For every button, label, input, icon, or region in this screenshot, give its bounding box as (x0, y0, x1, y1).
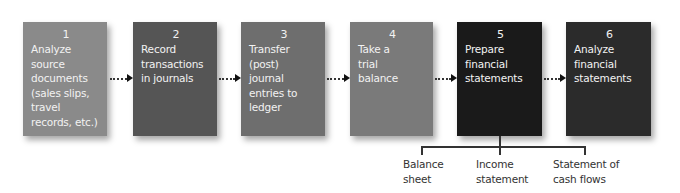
step-6-number: 6 (574, 28, 645, 41)
step-2-label: Record transactions in journals (141, 42, 211, 86)
step-4-label: Take a trial balance (358, 42, 427, 86)
step-5-label: Prepare financial statements (465, 42, 536, 86)
step-6-box: 6 Analyze financial statements (566, 22, 651, 136)
step-2-box: 2 Record transactions in journals (133, 22, 217, 136)
step-3-box: 3 Transfer (post) journal entries to led… (241, 22, 325, 136)
dotted-line (544, 78, 560, 80)
tree-branch-balance-sheet (421, 146, 423, 155)
arrow-5-to-6 (544, 74, 566, 83)
step-2-number: 2 (141, 28, 211, 41)
step-1-box: 1 Analyze source documents (sales slips,… (23, 22, 107, 136)
dotted-line (110, 78, 127, 80)
arrow-1-to-2 (110, 74, 133, 83)
step-3-label: Transfer (post) journal entries to ledge… (249, 42, 319, 115)
step-4-box: 4 Take a trial balance (350, 22, 433, 136)
dotted-line (219, 78, 235, 80)
step-6-label: Analyze financial statements (574, 42, 645, 86)
step-1-number: 1 (31, 28, 101, 41)
arrow-3-to-4 (327, 74, 350, 83)
balance-sheet-label: Balance sheet (403, 157, 443, 187)
tree-horizontal-line (421, 146, 585, 148)
step-4-number: 4 (358, 28, 427, 41)
tree-branch-cash-flows (584, 146, 586, 155)
step-5-number: 5 (465, 28, 536, 41)
step-5-box: 5 Prepare financial statements (457, 22, 542, 136)
step-3-number: 3 (249, 28, 319, 41)
cash-flows-statement-label: Statement of cash flows (553, 157, 619, 187)
dotted-line (327, 78, 344, 80)
dotted-line (435, 78, 451, 80)
step-1-label: Analyze source documents (sales slips, t… (31, 42, 101, 129)
income-statement-label: Income statement (476, 157, 528, 187)
arrow-4-to-5 (435, 74, 457, 83)
arrow-2-to-3 (219, 74, 241, 83)
